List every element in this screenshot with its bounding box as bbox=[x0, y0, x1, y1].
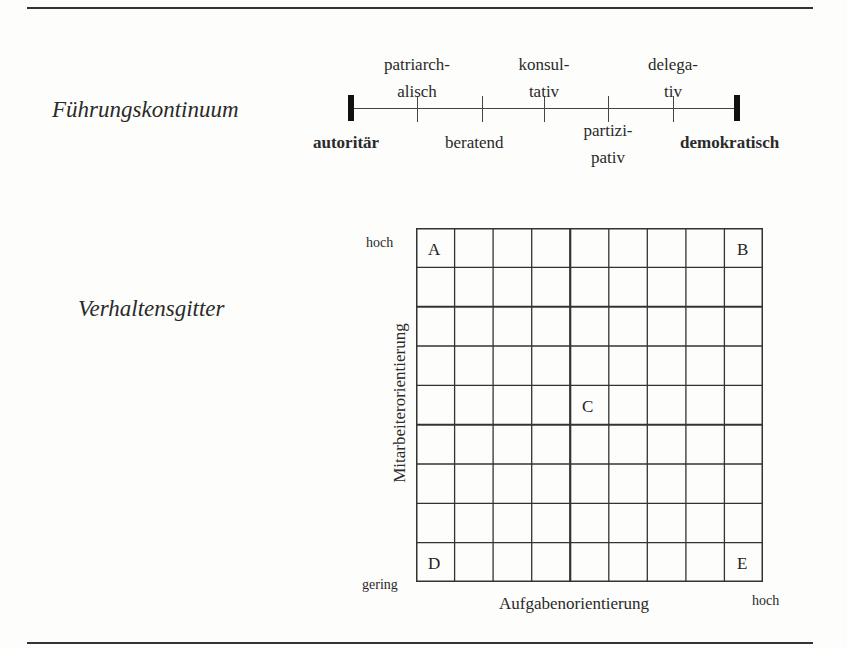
continuum-right-end-label: demokratisch bbox=[680, 134, 779, 151]
y-axis-low-label: gering bbox=[362, 577, 398, 593]
x-axis-label: Aufgabenorientierung bbox=[499, 594, 649, 614]
continuum-label-partizipativ: partizi- pativ bbox=[558, 122, 658, 166]
continuum-label-konsultativ: konsul- tativ bbox=[494, 56, 594, 100]
section-title-continuum: Führungskontinuum bbox=[52, 97, 239, 123]
continuum-line bbox=[352, 108, 738, 109]
continuum-label-patriarchalisch: patriarch- alisch bbox=[367, 56, 467, 100]
y-axis-high-label: hoch bbox=[366, 235, 393, 251]
x-axis-high-label: hoch bbox=[752, 593, 779, 609]
continuum-tick-beratend bbox=[482, 96, 483, 122]
continuum-left-end-bar bbox=[348, 95, 354, 121]
grid-corner-b: B bbox=[737, 240, 748, 260]
continuum-right-end-bar bbox=[734, 95, 740, 121]
top-rule bbox=[27, 7, 813, 9]
continuum-tick-partizipativ bbox=[608, 96, 609, 122]
behavior-grid: A B C D E bbox=[416, 228, 763, 582]
grid-corner-d: D bbox=[428, 554, 440, 574]
grid-corner-a: A bbox=[428, 240, 440, 260]
grid-center-c: C bbox=[582, 397, 593, 417]
continuum-left-end-label: autoritär bbox=[313, 134, 379, 151]
grid-corner-e: E bbox=[737, 554, 747, 574]
continuum-label-delegativ: delega- tiv bbox=[623, 56, 723, 100]
continuum-label-beratend: beratend bbox=[445, 134, 504, 151]
section-title-grid: Verhaltensgitter bbox=[78, 296, 225, 322]
bottom-rule bbox=[27, 642, 813, 644]
y-axis-label: Mitarbeiterorientierung bbox=[390, 303, 410, 503]
